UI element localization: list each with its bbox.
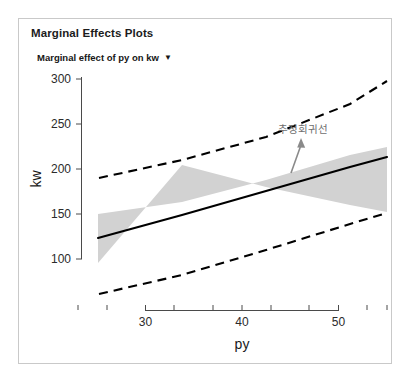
y-tick-label: 100: [51, 252, 71, 266]
annotation-arrow-shaft: [291, 145, 301, 173]
x-tick-label: 40: [235, 315, 249, 329]
x-tick-label: 30: [139, 315, 153, 329]
y-tick-label: 250: [51, 117, 71, 131]
plot-svg: 추정회귀선 300 250 200 150 100: [19, 19, 393, 365]
annotation-label: 추정회귀선: [278, 123, 328, 135]
confidence-band-area: [98, 147, 387, 263]
y-axis: 300 250 200 150 100 kw: [28, 72, 82, 266]
annotation-arrow-head: [297, 138, 305, 148]
x-axis-title: py: [235, 336, 250, 352]
screen: Marginal Effects Plots Marginal effect o…: [0, 0, 411, 382]
x-tick-label: 50: [332, 315, 346, 329]
y-tick-label: 300: [51, 72, 71, 86]
y-tick-label: 200: [51, 162, 71, 176]
y-axis-title: kw: [28, 170, 44, 188]
x-axis: 30 40 50 py: [78, 305, 387, 352]
marginal-effects-panel: Marginal Effects Plots Marginal effect o…: [18, 18, 392, 364]
marginal-effects-plot: 추정회귀선 300 250 200 150 100: [19, 19, 393, 365]
y-tick-label: 150: [51, 207, 71, 221]
